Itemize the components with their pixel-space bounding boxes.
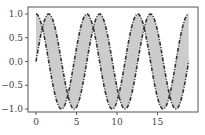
y-tick-label: −1.0	[1, 104, 23, 114]
x-tick-label: 10	[111, 117, 123, 127]
x-tick-label: 5	[74, 117, 80, 127]
fill-between-area	[36, 14, 189, 109]
x-tick-label: 15	[152, 117, 164, 127]
y-tick-label: 1.0	[9, 9, 24, 19]
y-axis: 1.00.50.0−0.5−1.0	[1, 9, 28, 114]
y-tick-label: −0.5	[1, 80, 23, 90]
y-tick-label: 0.5	[9, 33, 24, 43]
x-tick-label: 0	[33, 117, 39, 127]
chart: 051015 1.00.50.0−0.5−1.0	[0, 0, 205, 135]
plot-area	[36, 14, 189, 109]
y-tick-label: 0.0	[9, 57, 24, 67]
x-axis: 051015	[33, 112, 163, 127]
